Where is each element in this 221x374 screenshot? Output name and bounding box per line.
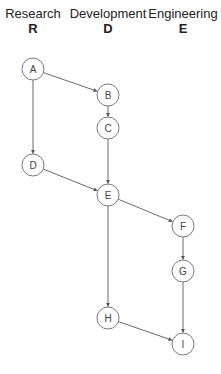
- flow-diagram: ABCDEFGHI: [0, 0, 221, 374]
- node-label: B: [105, 90, 112, 101]
- node-label: C: [104, 123, 111, 134]
- node-label: E: [105, 190, 112, 201]
- node-label: F: [180, 221, 186, 232]
- node-e: E: [97, 184, 119, 206]
- node-label: I: [182, 339, 185, 350]
- edge-a-to-b: [43, 73, 97, 92]
- node-a: A: [22, 58, 44, 80]
- node-f: F: [172, 215, 194, 237]
- node-label: A: [30, 64, 37, 75]
- node-h: H: [97, 307, 119, 329]
- edge-d-to-e: [43, 169, 97, 191]
- node-i: I: [172, 333, 194, 355]
- node-label: H: [104, 313, 111, 324]
- node-d: D: [22, 154, 44, 176]
- node-g: G: [172, 260, 194, 282]
- node-label: D: [29, 160, 36, 171]
- node-c: C: [97, 117, 119, 139]
- node-b: B: [97, 84, 119, 106]
- nodes-layer: ABCDEFGHI: [22, 58, 194, 355]
- edge-h-to-i: [118, 322, 172, 341]
- node-label: G: [179, 266, 187, 277]
- edge-e-to-f: [118, 199, 172, 221]
